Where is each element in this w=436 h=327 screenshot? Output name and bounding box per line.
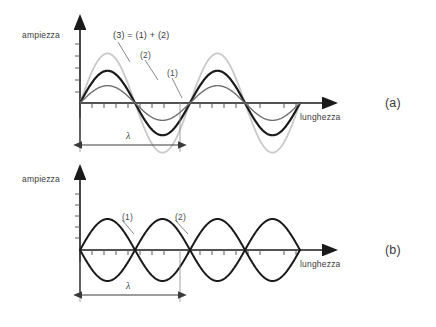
panel-tag-a: (a) bbox=[385, 96, 401, 110]
curve-2-label-b: (2) bbox=[175, 212, 186, 222]
curve-1-label-b: (1) bbox=[122, 212, 133, 222]
leader-1-a bbox=[172, 78, 182, 98]
curve-1-label-a: (1) bbox=[167, 68, 178, 78]
panel-tag-b: (b) bbox=[385, 243, 401, 257]
x-axis-label-b: lunghezza bbox=[300, 259, 341, 269]
panel-b: ampiezza (1) (2) lunghezza λ (b) bbox=[0, 162, 436, 327]
y-axis-label-a: ampiezza bbox=[22, 30, 60, 40]
wave-interference-figure: ampiezza (3) = (1) + (2) (2) (1) lunghez… bbox=[0, 0, 436, 327]
lambda-label-b: λ bbox=[126, 280, 131, 291]
leader-sum-a bbox=[118, 42, 130, 62]
lambda-label-a: λ bbox=[126, 130, 131, 141]
lambda-span-a bbox=[80, 103, 180, 152]
leader-2-a bbox=[145, 60, 158, 80]
curve-2-label-a: (2) bbox=[140, 50, 151, 60]
leader-2-b bbox=[175, 220, 188, 234]
panel-a: ampiezza (3) = (1) + (2) (2) (1) lunghez… bbox=[0, 0, 436, 165]
y-axis-label-b: ampiezza bbox=[22, 174, 60, 184]
panel-b-graphic bbox=[0, 162, 436, 327]
sum-equation-label-a: (3) = (1) + (2) bbox=[113, 30, 170, 40]
x-axis-label-a: lunghezza bbox=[300, 112, 341, 122]
panel-a-graphic bbox=[0, 0, 436, 165]
